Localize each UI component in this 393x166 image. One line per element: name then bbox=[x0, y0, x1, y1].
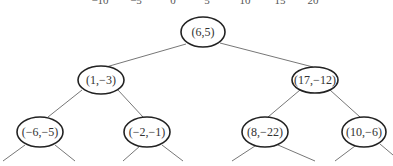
axis-tick: 20 bbox=[308, 0, 319, 6]
node-label-n2: (17,−12) bbox=[294, 73, 336, 88]
edge-root-n1 bbox=[106, 44, 186, 67]
axis-tick: 15 bbox=[275, 0, 286, 6]
kd-tree-diagram: −10 −5 0 5 10 15 20 (6,5) (1,−3) (17,−12… bbox=[0, 0, 393, 166]
edge-n3-left bbox=[3, 145, 25, 161]
edge-n3-right bbox=[55, 145, 75, 161]
edge-n2-n6 bbox=[330, 90, 360, 117]
edge-root-n2 bbox=[220, 43, 313, 67]
axis-tick: 10 bbox=[240, 0, 251, 6]
axis-tick: −10 bbox=[91, 0, 108, 6]
edge-n5-left bbox=[232, 146, 255, 161]
axis-tick: 0 bbox=[170, 0, 176, 6]
node-label-n3: (−6,−5) bbox=[22, 125, 59, 140]
edge-n1-n4 bbox=[118, 90, 143, 117]
edge-n6-right bbox=[380, 144, 393, 155]
edge-n4-right bbox=[162, 145, 183, 161]
edge-n6-left bbox=[335, 146, 355, 161]
axis-tick: 5 bbox=[204, 0, 210, 6]
node-label-n5: (8,−22) bbox=[247, 125, 283, 140]
node-label-n6: (10,−6) bbox=[346, 125, 382, 140]
edge-n4-left bbox=[123, 146, 140, 161]
node-label-n1: (1,−3) bbox=[86, 73, 116, 88]
edge-n5-right bbox=[278, 145, 315, 161]
edge-n1-n3 bbox=[48, 90, 82, 117]
node-label-root: (6,5) bbox=[192, 25, 215, 40]
edge-n2-n5 bbox=[268, 90, 300, 117]
axis-tick: −5 bbox=[130, 0, 142, 6]
node-label-n4: (−2,−1) bbox=[129, 125, 166, 140]
